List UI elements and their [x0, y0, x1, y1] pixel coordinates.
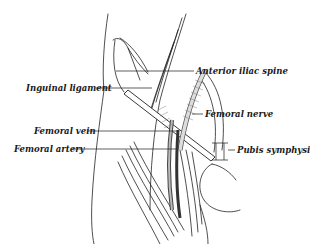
- thigh-illustration: [0, 0, 310, 244]
- label-femoral-vein: Femoral vein: [34, 127, 96, 136]
- label-anterior-iliac-spine: Anterior iliac spine: [196, 67, 288, 76]
- label-femoral-artery: Femoral artery: [14, 145, 85, 154]
- label-pubis-symphysis: Pubis symphysis: [237, 146, 310, 155]
- label-femoral-nerve: Femoral nerve: [205, 110, 273, 119]
- anatomy-figure: Inguinal ligament Anterior iliac spine F…: [0, 0, 310, 244]
- label-inguinal-ligament: Inguinal ligament: [26, 84, 112, 93]
